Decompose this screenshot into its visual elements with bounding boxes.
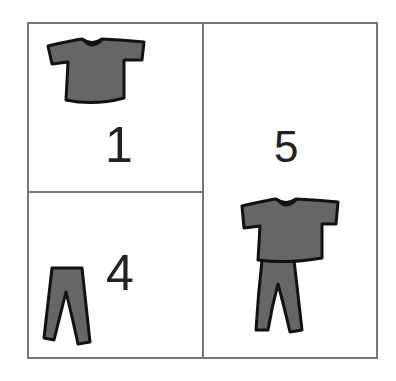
- cell-label-1: 1: [105, 116, 133, 174]
- cell-label-4: 4: [106, 244, 134, 302]
- pants-icon: [42, 266, 94, 346]
- shirt-icon: [44, 36, 148, 108]
- outfit-icon: [238, 196, 342, 336]
- cell-label-5: 5: [274, 122, 298, 172]
